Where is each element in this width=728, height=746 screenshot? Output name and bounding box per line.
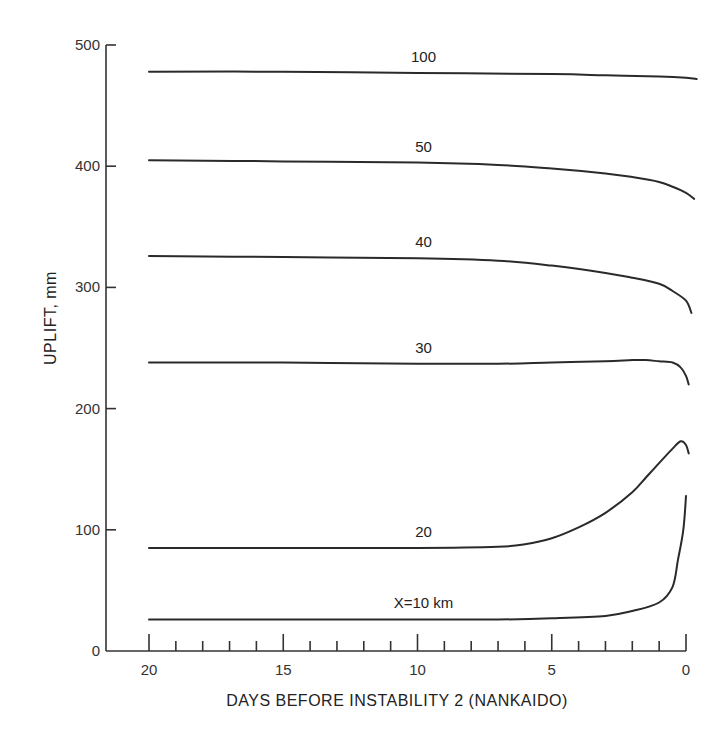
curve-label-50: 50 bbox=[415, 138, 432, 155]
x-tick-label: 20 bbox=[141, 661, 158, 678]
x-tick-label: 10 bbox=[409, 661, 426, 678]
curve-40 bbox=[149, 256, 691, 313]
y-axis-title: UPLIFT, mm bbox=[42, 271, 59, 365]
curve-100 bbox=[149, 72, 697, 79]
y-tick-label: 200 bbox=[75, 400, 100, 417]
y-tick-label: 400 bbox=[75, 157, 100, 174]
y-tick-label: 500 bbox=[75, 36, 100, 53]
curve-label-40: 40 bbox=[415, 233, 432, 250]
x-tick-label: 5 bbox=[548, 661, 556, 678]
curve-label-20: 20 bbox=[415, 523, 432, 540]
uplift-chart: 010020030040050020151050 10050403020X=10… bbox=[0, 0, 728, 746]
y-tick-label: 300 bbox=[75, 278, 100, 295]
curve-30 bbox=[149, 360, 689, 384]
curve-labels: 10050403020X=10 km bbox=[394, 48, 454, 612]
curve-label-x-10-km: X=10 km bbox=[394, 594, 454, 611]
y-tick-label: 0 bbox=[92, 642, 100, 659]
x-tick-label: 15 bbox=[275, 661, 292, 678]
curve-label-30: 30 bbox=[415, 339, 432, 356]
x-axis-title: DAYS BEFORE INSTABILITY 2 (NANKAIDO) bbox=[226, 692, 568, 709]
x-tick-label: 0 bbox=[682, 661, 690, 678]
curve-label-100: 100 bbox=[411, 48, 436, 65]
axis-ticks: 010020030040050020151050 bbox=[75, 36, 690, 678]
y-tick-label: 100 bbox=[75, 521, 100, 538]
curve-50 bbox=[149, 160, 694, 199]
axes bbox=[106, 45, 686, 651]
